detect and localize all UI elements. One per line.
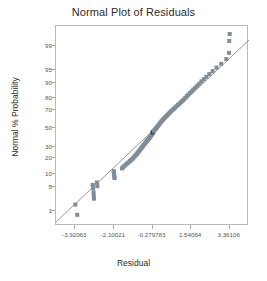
- data-point: [113, 176, 117, 180]
- data-point: [92, 197, 96, 201]
- x-tick-label: -3.92063: [62, 231, 86, 238]
- x-tick-mark: [152, 225, 153, 229]
- x-tick-label: 3.36106: [218, 231, 240, 238]
- x-axis-tick-labels: -3.92063-2.10021-0.2797831.540643.36106: [55, 231, 248, 243]
- data-point: [95, 181, 99, 185]
- x-tick-label: 1.54064: [179, 231, 201, 238]
- data-point: [91, 186, 95, 190]
- plot-canvas: [56, 26, 249, 226]
- plot-area: [55, 25, 248, 225]
- y-axis-title: Normal % Probability: [10, 57, 20, 177]
- x-tick-mark: [190, 225, 191, 229]
- normal-probability-plot-figure: Normal Plot of Residuals Normal % Probab…: [0, 0, 267, 281]
- x-tick-mark: [229, 225, 230, 229]
- data-point: [227, 51, 231, 55]
- x-axis-title: Residual: [0, 258, 267, 268]
- x-tick-mark: [74, 225, 75, 229]
- data-point: [227, 39, 231, 43]
- data-point: [73, 203, 77, 207]
- y-axis-tick-labels: 15102030507080909599: [30, 25, 52, 225]
- data-point: [92, 190, 96, 194]
- chart-title: Normal Plot of Residuals: [0, 6, 267, 18]
- data-point: [95, 184, 99, 188]
- data-point: [224, 57, 228, 61]
- data-point: [228, 32, 232, 36]
- data-point: [75, 213, 79, 217]
- data-point: [215, 66, 219, 70]
- data-point: [211, 69, 215, 73]
- x-axis-tick-marks: [55, 225, 248, 229]
- x-tick-label: -0.279783: [138, 231, 166, 238]
- x-tick-label: -2.10021: [101, 231, 125, 238]
- data-point-group: [73, 32, 231, 217]
- x-tick-mark: [113, 225, 114, 229]
- data-point: [219, 62, 223, 66]
- data-point: [91, 183, 95, 187]
